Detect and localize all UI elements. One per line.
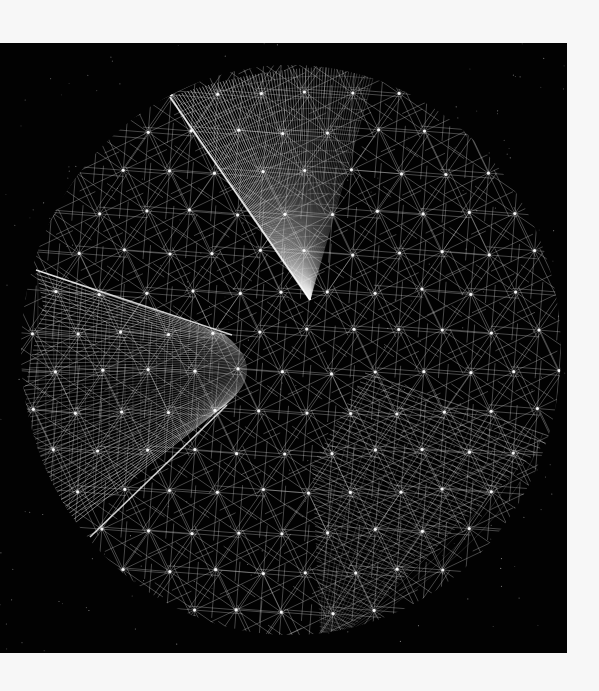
fan-sectors bbox=[24, 67, 552, 639]
geometric-lattice-artwork bbox=[0, 43, 567, 653]
artwork-frame bbox=[0, 43, 567, 653]
